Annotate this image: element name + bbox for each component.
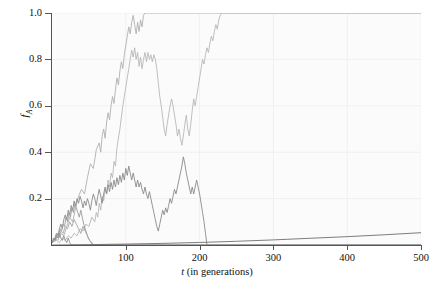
x-axis-tick-label: 300 bbox=[253, 252, 293, 263]
x-axis-tick-mark bbox=[273, 245, 274, 250]
series-line bbox=[52, 203, 421, 245]
plot-area bbox=[52, 13, 421, 245]
y-axis-tick-mark bbox=[45, 152, 51, 153]
x-axis-tick-mark bbox=[421, 245, 422, 250]
x-axis-spine bbox=[51, 245, 422, 246]
y-axis-tick-label: 1.0 bbox=[2, 8, 42, 18]
y-axis-title-base: f bbox=[18, 114, 30, 117]
plot-canvas bbox=[52, 13, 421, 245]
y-axis-tick-label: 0.2 bbox=[2, 193, 42, 203]
x-axis-tick-mark bbox=[200, 245, 201, 250]
series-group bbox=[52, 13, 421, 245]
y-axis-tick-mark bbox=[45, 199, 51, 200]
gridlines bbox=[52, 13, 421, 245]
y-axis-tick-label: 0.4 bbox=[2, 147, 42, 157]
x-axis-title: t (in generations) bbox=[0, 266, 434, 277]
x-axis-tick-label: 200 bbox=[180, 252, 220, 263]
y-axis-tick-mark bbox=[45, 13, 51, 14]
y-axis-spine bbox=[51, 13, 52, 246]
x-axis-tick-mark bbox=[126, 245, 127, 250]
series-line bbox=[52, 13, 421, 243]
series-line bbox=[52, 157, 421, 245]
y-axis-tick-mark bbox=[45, 59, 51, 60]
x-axis-tick-label: 400 bbox=[327, 252, 367, 263]
y-axis-title: fA bbox=[18, 94, 33, 134]
x-axis-title-rest: (in generations) bbox=[184, 266, 253, 277]
x-axis-tick-label: 500 bbox=[401, 252, 434, 263]
x-axis-tick-label: 100 bbox=[106, 252, 146, 263]
y-axis-tick-label: 0.8 bbox=[2, 54, 42, 64]
x-axis-tick-mark bbox=[347, 245, 348, 250]
series-line bbox=[52, 233, 421, 245]
y-axis-title-subscript: A bbox=[25, 110, 34, 115]
series-line bbox=[52, 233, 421, 245]
chart-figure: 0.20.40.60.81.0 100200300400500 fA t (in… bbox=[0, 0, 434, 287]
series-line bbox=[52, 13, 421, 243]
y-axis-tick-mark bbox=[45, 106, 51, 107]
